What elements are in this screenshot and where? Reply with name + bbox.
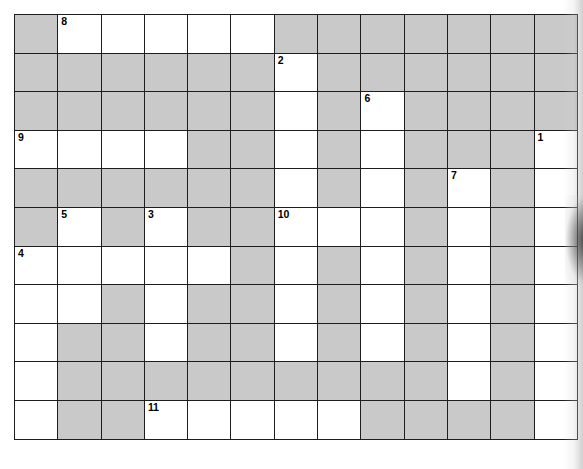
crossword-cell-blocked [231, 92, 274, 131]
crossword-cell-open[interactable]: 7 [447, 169, 490, 208]
crossword-cell-open[interactable] [15, 362, 58, 401]
crossword-cell-blocked [15, 53, 58, 92]
cell-number: 10 [278, 209, 289, 220]
crossword-cell-blocked [101, 323, 144, 362]
crossword-cell-blocked [231, 285, 274, 324]
crossword-cell-open[interactable] [534, 246, 577, 285]
crossword-cell-open[interactable] [144, 285, 187, 324]
crossword-cell-blocked [491, 92, 534, 131]
crossword-cell-open[interactable] [15, 323, 58, 362]
crossword-cell-open[interactable] [231, 400, 274, 439]
crossword-cell-open[interactable] [274, 169, 317, 208]
crossword-cell-open[interactable] [447, 362, 490, 401]
crossword-cell-open[interactable] [274, 92, 317, 131]
crossword-cell-open[interactable] [58, 285, 101, 324]
crossword-grid[interactable]: 8269175310411 [14, 14, 578, 440]
crossword-cell-open[interactable] [58, 130, 101, 169]
crossword-cell-open[interactable] [534, 285, 577, 324]
crossword-cell-blocked [404, 285, 447, 324]
crossword-cell-blocked [361, 15, 404, 54]
crossword-cell-open[interactable] [447, 207, 490, 246]
crossword-cell-open[interactable] [274, 323, 317, 362]
crossword-cell-open[interactable] [15, 285, 58, 324]
crossword-cell-open[interactable] [361, 323, 404, 362]
crossword-cell-open[interactable] [361, 130, 404, 169]
crossword-cell-open[interactable]: 3 [144, 207, 187, 246]
crossword-cell-blocked [144, 53, 187, 92]
crossword-cell-blocked [188, 169, 231, 208]
crossword-cell-blocked [491, 207, 534, 246]
crossword-cell-open[interactable] [534, 207, 577, 246]
crossword-cell-open[interactable] [144, 130, 187, 169]
crossword-cell-blocked [404, 130, 447, 169]
crossword-cell-open[interactable] [447, 323, 490, 362]
crossword-cell-open[interactable] [15, 400, 58, 439]
crossword-cell-open[interactable]: 4 [15, 246, 58, 285]
crossword-row: 4 [15, 246, 578, 285]
crossword-cell-open[interactable] [188, 246, 231, 285]
crossword-cell-open[interactable] [101, 246, 144, 285]
crossword-cell-open[interactable] [274, 246, 317, 285]
crossword-cell-open[interactable] [534, 323, 577, 362]
crossword-cell-open[interactable]: 2 [274, 53, 317, 92]
crossword-cell-open[interactable] [231, 15, 274, 54]
crossword-cell-open[interactable]: 9 [15, 130, 58, 169]
crossword-cell-open[interactable] [361, 246, 404, 285]
crossword-cell-blocked [101, 285, 144, 324]
crossword-cell-open[interactable] [361, 285, 404, 324]
crossword-cell-open[interactable] [144, 15, 187, 54]
crossword-cell-open[interactable] [101, 15, 144, 54]
crossword-cell-open[interactable] [274, 400, 317, 439]
crossword-cell-blocked [231, 362, 274, 401]
crossword-cell-open[interactable] [188, 400, 231, 439]
crossword-cell-blocked [231, 323, 274, 362]
crossword-cell-blocked [101, 362, 144, 401]
crossword-cell-blocked [404, 323, 447, 362]
crossword-cell-open[interactable] [447, 285, 490, 324]
crossword-cell-blocked [447, 53, 490, 92]
crossword-cell-open[interactable]: 10 [274, 207, 317, 246]
crossword-cell-open[interactable] [58, 246, 101, 285]
crossword-cell-open[interactable] [361, 207, 404, 246]
crossword-cell-blocked [534, 92, 577, 131]
crossword-cell-open[interactable] [274, 285, 317, 324]
crossword-cell-open[interactable]: 1 [534, 130, 577, 169]
crossword-cell-blocked [318, 323, 361, 362]
crossword-cell-open[interactable] [188, 15, 231, 54]
crossword-cell-blocked [58, 400, 101, 439]
crossword-cell-blocked [404, 15, 447, 54]
crossword-cell-blocked [491, 130, 534, 169]
crossword-cell-open[interactable] [534, 169, 577, 208]
cell-number: 1 [538, 132, 544, 143]
crossword-cell-blocked [404, 92, 447, 131]
crossword-cell-open[interactable] [144, 323, 187, 362]
crossword-cell-blocked [231, 207, 274, 246]
crossword-cell-blocked [15, 15, 58, 54]
crossword-cell-blocked [404, 53, 447, 92]
crossword-cell-blocked [15, 169, 58, 208]
cell-number: 4 [18, 248, 24, 259]
crossword-cell-blocked [58, 92, 101, 131]
crossword-cell-blocked [188, 130, 231, 169]
crossword-cell-open[interactable] [274, 130, 317, 169]
crossword-cell-open[interactable] [534, 362, 577, 401]
crossword-cell-blocked [534, 15, 577, 54]
crossword-cell-open[interactable] [447, 246, 490, 285]
crossword-cell-blocked [318, 169, 361, 208]
crossword-cell-open[interactable] [318, 207, 361, 246]
crossword-cell-open[interactable] [361, 169, 404, 208]
crossword-cell-open[interactable] [534, 400, 577, 439]
crossword-row: 5310 [15, 207, 578, 246]
crossword-cell-open[interactable]: 6 [361, 92, 404, 131]
crossword-cell-open[interactable]: 8 [58, 15, 101, 54]
crossword-cell-open[interactable] [101, 130, 144, 169]
crossword-cell-blocked [404, 169, 447, 208]
crossword-cell-open[interactable] [144, 246, 187, 285]
crossword-cell-open[interactable]: 5 [58, 207, 101, 246]
crossword-cell-blocked [58, 362, 101, 401]
crossword-cell-blocked [188, 207, 231, 246]
crossword-cell-open[interactable]: 11 [144, 400, 187, 439]
cell-number: 2 [278, 55, 284, 66]
crossword-cell-blocked [58, 169, 101, 208]
crossword-cell-open[interactable] [318, 400, 361, 439]
